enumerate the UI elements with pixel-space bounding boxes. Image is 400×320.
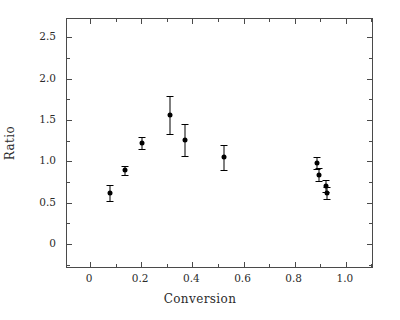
axis-tick (320, 264, 321, 267)
error-bar-cap-top (138, 137, 145, 138)
error-bar-cap-top (313, 157, 320, 158)
axis-tick (369, 99, 372, 100)
error-bar-cap-bottom (181, 156, 188, 157)
x-tick-label: 1.0 (336, 272, 353, 284)
axis-tick (90, 19, 91, 24)
axis-tick (67, 37, 72, 38)
axis-tick (369, 58, 372, 59)
plot-frame (66, 18, 373, 268)
axis-tick (67, 141, 70, 142)
axis-tick (369, 265, 372, 266)
error-bar-cap-bottom (106, 201, 113, 202)
axis-tick (90, 262, 91, 267)
axis-tick (367, 79, 372, 80)
data-marker (107, 190, 112, 195)
axis-tick (269, 264, 270, 267)
axis-tick (67, 265, 70, 266)
x-tick-label: 0.8 (285, 272, 302, 284)
axis-tick (367, 161, 372, 162)
axis-tick (67, 99, 70, 100)
axis-tick (141, 19, 142, 24)
data-marker (314, 161, 319, 166)
error-bar-cap-top (324, 187, 331, 188)
axis-tick (269, 19, 270, 22)
error-bar-cap-bottom (138, 149, 145, 150)
error-bar-cap-top (315, 168, 322, 169)
data-marker (325, 190, 330, 195)
y-tick-label: 2.5 (0, 30, 56, 42)
data-point (141, 137, 142, 149)
data-marker (123, 168, 128, 173)
data-point (125, 166, 126, 174)
axis-tick (244, 19, 245, 24)
error-bar-cap-top (166, 96, 173, 97)
error-bar-cap-bottom (122, 175, 129, 176)
axis-tick (141, 262, 142, 267)
error-bar-cap-top (106, 185, 113, 186)
axis-tick (369, 223, 372, 224)
axis-tick (67, 161, 72, 162)
y-tick-label: 0.5 (0, 196, 56, 208)
error-bar-cap-top (322, 180, 329, 181)
axis-tick (116, 264, 117, 267)
axis-tick (369, 141, 372, 142)
axis-tick (346, 262, 347, 267)
error-bar-cap-top (221, 145, 228, 146)
data-marker (139, 141, 144, 146)
y-tick-label: 0 (0, 237, 56, 249)
axis-tick (367, 244, 372, 245)
error-bar-cap-bottom (166, 134, 173, 135)
axis-tick (371, 19, 372, 22)
axis-tick (167, 19, 168, 22)
data-point (224, 145, 225, 170)
x-tick-label: 0.6 (234, 272, 251, 284)
data-point (184, 124, 185, 155)
axis-tick (295, 262, 296, 267)
x-tick-label: 0 (86, 272, 93, 284)
axis-tick (295, 19, 296, 24)
x-axis-title: Conversion (0, 292, 400, 306)
axis-tick (67, 58, 70, 59)
y-tick-label: 1.5 (0, 113, 56, 125)
axis-tick (67, 182, 70, 183)
error-bar-cap-bottom (221, 170, 228, 171)
data-point (327, 187, 328, 199)
data-point (318, 168, 319, 181)
axis-tick (367, 120, 372, 121)
axis-tick (67, 244, 72, 245)
axis-tick (367, 203, 372, 204)
axis-tick (192, 19, 193, 24)
data-marker (182, 137, 187, 142)
axis-tick (67, 203, 72, 204)
axis-tick (218, 19, 219, 22)
axis-tick (218, 264, 219, 267)
y-tick-label: 2.0 (0, 72, 56, 84)
data-point (109, 185, 110, 202)
axis-tick (244, 262, 245, 267)
chart-root: 00.20.40.60.81.0 00.51.01.52.02.5 Conver… (0, 0, 400, 320)
axis-tick (369, 182, 372, 183)
axis-tick (367, 37, 372, 38)
x-tick-label: 0.2 (132, 272, 149, 284)
axis-tick (67, 223, 70, 224)
axis-tick (192, 262, 193, 267)
axis-tick (167, 264, 168, 267)
data-marker (167, 113, 172, 118)
axis-tick (67, 120, 72, 121)
axis-tick (116, 19, 117, 22)
x-tick-label: 0.4 (183, 272, 200, 284)
error-bar-cap-top (181, 124, 188, 125)
axis-tick (67, 79, 72, 80)
data-point (169, 96, 170, 134)
data-marker (316, 172, 321, 177)
y-axis-title: Ratio (3, 126, 17, 160)
data-marker (222, 155, 227, 160)
error-bar-cap-bottom (324, 199, 331, 200)
axis-tick (320, 19, 321, 22)
axis-tick (346, 19, 347, 24)
